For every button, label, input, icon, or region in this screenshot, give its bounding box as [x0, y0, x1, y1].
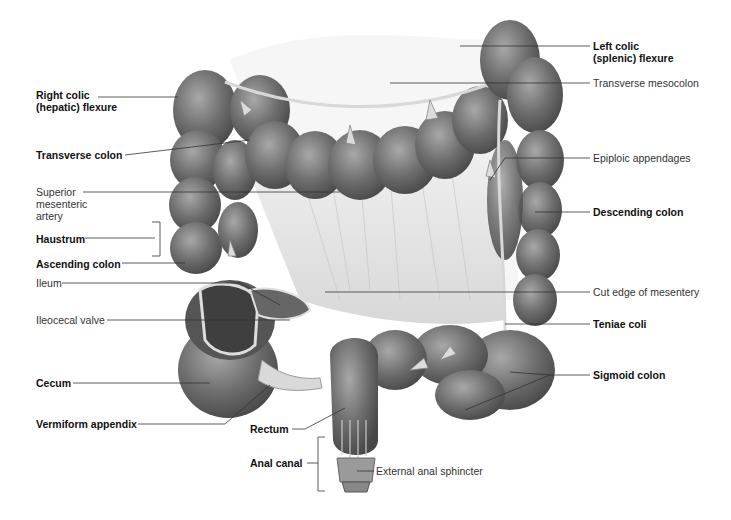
label-rectum: Rectum — [250, 423, 289, 435]
label-ascending-colon: Ascending colon — [36, 258, 121, 270]
label-left-colic-flexure: Left colic (splenic) flexure — [593, 40, 674, 64]
rectum-shape — [330, 338, 378, 492]
label-cut-edge-of-mesentery: Cut edge of mesentery — [593, 286, 699, 298]
label-superior-mesenteric-artery: Superior mesenteric artery — [36, 186, 87, 222]
label-right-colic-flexure: Right colic (hepatic) flexure — [36, 89, 117, 113]
cecum-shape — [178, 280, 322, 418]
sigmoid-colon-shape — [363, 325, 555, 420]
label-haustrum: Haustrum — [36, 233, 85, 245]
label-transverse-colon: Transverse colon — [36, 149, 122, 161]
label-ileocecal-valve: Ileocecal valve — [36, 314, 105, 326]
label-epiploic-appendages: Epiploic appendages — [593, 152, 691, 164]
label-cecum: Cecum — [36, 377, 71, 389]
label-vermiform-appendix: Vermiform appendix — [36, 418, 137, 430]
label-external-anal-sphincter: External anal sphincter — [376, 465, 483, 477]
label-anal-canal: Anal canal — [250, 457, 303, 469]
label-teniae-coli: Teniae coli — [593, 318, 647, 330]
label-sigmoid-colon: Sigmoid colon — [593, 369, 665, 381]
label-ileum: Ileum — [36, 277, 62, 289]
label-transverse-mesocolon: Transverse mesocolon — [593, 77, 699, 89]
label-descending-colon: Descending colon — [593, 206, 683, 218]
